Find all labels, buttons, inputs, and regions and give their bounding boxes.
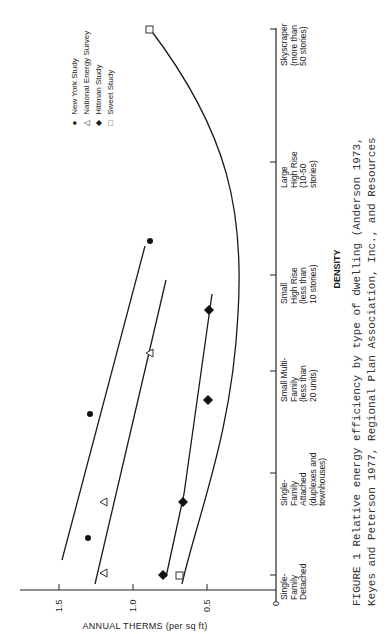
sweet-trend-curve <box>150 29 239 584</box>
x-axis-title: DENSITY <box>332 234 342 304</box>
hittman-trend-line <box>166 294 212 577</box>
y-axis-title: ANNUAL THERMS (per sq ft) <box>75 621 215 631</box>
rotated-figure: 0 0.5 1.0 1.5 ANNUAL THERMS (per sq ft) … <box>0 0 392 634</box>
nes-point <box>100 498 107 506</box>
y-tick-label: 0 <box>271 601 281 606</box>
filled-diamond-icon: ◆ <box>94 117 104 129</box>
category-label-small-multi-family: Small Multi- Family (less than 20 units) <box>280 332 318 402</box>
hittman-point <box>158 570 168 580</box>
category-label-detached: Single- Family Detached <box>280 540 309 600</box>
category-label-skyscraper: Skyscraper (more than 50 stories) <box>280 0 309 66</box>
category-label-large-high-rise: Large High Rise (10-50 stories) <box>280 118 318 188</box>
new-york-point <box>87 411 93 417</box>
open-triangle-icon: △ <box>82 117 92 129</box>
hittman-point <box>178 497 188 507</box>
open-square-icon: □ <box>106 117 116 129</box>
y-tick-label: 1.5 <box>54 599 64 612</box>
nes-trend-line <box>95 280 166 584</box>
chart-plot <box>0 0 392 634</box>
filled-circle-icon: ● <box>70 117 80 129</box>
nes-point <box>100 569 107 577</box>
category-label-attached: Single- Family Attached (duplexes and to… <box>280 426 328 506</box>
legend-item-hittman: ◆ Hittman Study <box>94 65 104 129</box>
new-york-point <box>85 535 91 541</box>
sweet-point <box>146 26 153 33</box>
y-tick-label: 0.5 <box>202 599 212 612</box>
legend-item-new-york: ● New York Study <box>70 58 80 129</box>
legend-item-nes: △ National Energy Survey <box>82 31 92 129</box>
figure-caption: FIGURE 1 Relative energy efficiency by t… <box>350 137 380 606</box>
hittman-point <box>203 395 213 405</box>
legend-item-sweet: □ Sweet Study <box>106 70 116 129</box>
new-york-trend-line <box>62 246 145 560</box>
category-label-small-high-rise: Small High Rise (less than 10 stories) <box>280 234 318 304</box>
y-tick-label: 1.0 <box>128 599 138 612</box>
hittman-point <box>204 305 214 315</box>
sweet-point <box>176 572 183 579</box>
new-york-point <box>147 238 153 244</box>
